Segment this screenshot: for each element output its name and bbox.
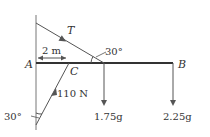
label-angle-top: 30° <box>105 46 123 57</box>
label-b: B <box>177 58 186 71</box>
dimension-arrow-left-icon <box>38 56 43 61</box>
angle-arc-bottom <box>36 113 42 114</box>
load-arrow-mid-icon <box>101 100 107 106</box>
label-t: T <box>67 24 76 37</box>
label-c: C <box>70 65 79 78</box>
label-load-end: 2.25g <box>163 111 192 122</box>
label-angle-bottom: 30° <box>4 111 22 122</box>
dimension-arrow-right-icon <box>61 56 66 61</box>
label-2m: 2 m <box>42 45 62 56</box>
statics-diagram: T 2 m A C B 30° 30° 110 N 1.75g 2.25g <box>0 0 210 137</box>
load-arrow-end-icon <box>170 100 176 106</box>
label-a: A <box>24 58 33 71</box>
tension-arrow-icon <box>59 35 67 41</box>
label-load-mid: 1.75g <box>94 111 123 122</box>
angle-leader-bottom <box>31 116 39 118</box>
label-110n: 110 N <box>57 88 88 99</box>
